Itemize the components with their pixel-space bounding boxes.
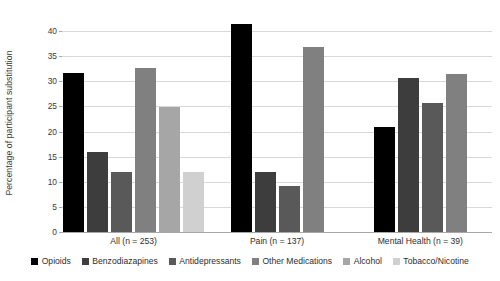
- legend-item[interactable]: Opioids: [31, 256, 71, 266]
- legend-swatch-icon: [82, 258, 89, 265]
- bar: [422, 103, 443, 232]
- bar: [63, 73, 84, 232]
- legend-swatch-icon: [169, 258, 176, 265]
- legend-swatch-icon: [393, 258, 400, 265]
- x-axis-line: [62, 232, 492, 233]
- bar: [303, 47, 324, 232]
- bar: [87, 152, 108, 232]
- legend-item[interactable]: Other Medications: [252, 256, 332, 266]
- plot-area: [62, 21, 492, 232]
- y-axis-tick-label: 15: [16, 152, 62, 162]
- legend-label: Antidepressants: [179, 256, 241, 266]
- bar: [446, 74, 467, 232]
- bar: [374, 127, 395, 233]
- y-axis-tick-label: 25: [16, 101, 62, 111]
- bar: [279, 186, 300, 232]
- bar-group: [63, 21, 204, 232]
- legend-item[interactable]: Tobacco/Nicotine: [393, 256, 469, 266]
- y-axis-tick-label: 0: [16, 227, 62, 237]
- legend-item[interactable]: Alcohol: [343, 256, 382, 266]
- legend-label: Alcohol: [354, 256, 382, 266]
- bar: [159, 107, 180, 232]
- bar-group: [231, 21, 324, 232]
- legend-swatch-icon: [252, 258, 259, 265]
- y-axis-ticks: 0510152025303540: [10, 21, 62, 232]
- bar: [183, 172, 204, 232]
- bar: [111, 172, 132, 232]
- bar: [135, 68, 156, 232]
- legend-item[interactable]: Benzodiazapines: [82, 256, 158, 266]
- bar: [398, 78, 419, 232]
- legend-label: Other Medications: [262, 256, 332, 266]
- y-axis-tick-label: 20: [16, 127, 62, 137]
- chart-legend: OpioidsBenzodiazapinesAntidepressantsOth…: [0, 256, 500, 266]
- legend-label: Opioids: [42, 256, 71, 266]
- y-axis-tick-label: 5: [16, 202, 62, 212]
- legend-swatch-icon: [31, 258, 38, 265]
- y-axis-tick-label: 10: [16, 177, 62, 187]
- bar: [255, 172, 276, 232]
- bar: [231, 24, 252, 232]
- legend-item[interactable]: Antidepressants: [169, 256, 241, 266]
- y-axis-tick-label: 30: [16, 76, 62, 86]
- bar-group: [374, 21, 467, 232]
- bar-chart-figure: Percentage of participant substitution 0…: [0, 0, 500, 281]
- x-axis-category-label: Pain (n = 137): [250, 236, 304, 246]
- legend-label: Benzodiazapines: [92, 256, 157, 266]
- legend-label: Tobacco/Nicotine: [403, 256, 468, 266]
- x-axis-category-label: All (n = 253): [110, 236, 157, 246]
- y-axis-tick-label: 40: [16, 26, 62, 36]
- legend-swatch-icon: [343, 258, 350, 265]
- x-axis-category-label: Mental Health (n = 39): [378, 236, 463, 246]
- y-axis-tick-label: 35: [16, 51, 62, 61]
